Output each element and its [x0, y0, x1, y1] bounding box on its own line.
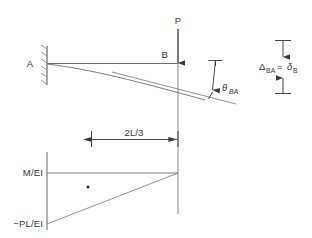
label-support-a: A	[27, 58, 34, 69]
centroid-dot	[87, 186, 90, 189]
svg-text:BA: BA	[266, 67, 276, 74]
theta-angle-measure	[209, 60, 223, 99]
label-point-b: B	[162, 49, 169, 60]
svg-text:=: =	[277, 61, 283, 72]
label-dimension-2l3: 2L/3	[124, 127, 143, 138]
label-delta-ba: Δ BA = δ B	[259, 61, 298, 74]
engineering-figure: A B P θ BA Δ BA = δ B 2L/3 M/EI −PL/EI	[0, 0, 312, 238]
svg-text:θ: θ	[222, 82, 228, 93]
svg-text:Δ: Δ	[259, 61, 266, 72]
svg-text:B: B	[293, 67, 298, 74]
deflected-shape-curve	[47, 64, 205, 100]
fixed-support-wall	[41, 45, 47, 85]
moment-diagram	[47, 152, 178, 230]
moment-diagram-hypotenuse	[47, 173, 178, 224]
label-theta-ba: θ BA	[222, 82, 239, 95]
svg-text:BA: BA	[229, 88, 239, 95]
label-neg-pl-over-ei: −PL/EI	[13, 218, 43, 229]
label-load-p: P	[175, 15, 182, 26]
figure-canvas: A B P θ BA Δ BA = δ B 2L/3 M/EI −PL/EI	[0, 0, 312, 238]
label-m-over-ei: M/EI	[23, 167, 43, 178]
tangent-line-at-b	[112, 72, 236, 104]
